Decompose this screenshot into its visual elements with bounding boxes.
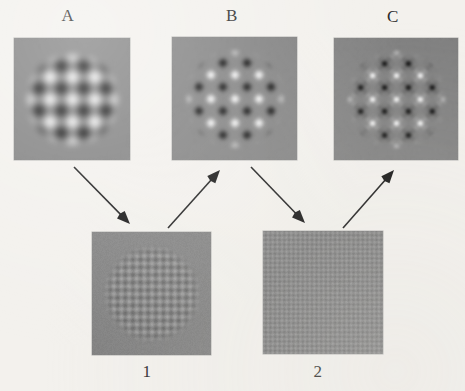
stimulus-canvas-1 [92,232,211,355]
stimulus-canvas-a [14,38,130,160]
stimulus-canvas-b [172,37,297,160]
panel-label-a: A [53,7,83,25]
arrow-1-to-b-line [168,177,213,228]
arrow-1-to-b-head [207,170,220,183]
stimulus-panel-b [172,37,297,160]
arrow-b-to-2-line [251,167,298,216]
stimulus-panel-1 [92,232,211,355]
stimulus-canvas-c [334,38,458,160]
arrow-a-to-1-head [117,211,130,224]
stimulus-panel-c [334,38,458,160]
stimulus-canvas-2 [263,231,383,354]
stimulus-panel-2 [263,231,383,354]
arrow-b-to-2-head [292,210,305,223]
panel-label-2: 2 [303,363,333,381]
arrow-2-to-c-line [343,178,387,228]
panel-label-1: 1 [132,363,162,381]
arrow-2-to-c-head [381,170,394,183]
arrow-a-to-1-line [74,167,123,217]
figure-root: A B C 1 2 [0,0,465,391]
stimulus-panel-a [14,38,130,160]
panel-label-c: C [378,8,408,26]
panel-label-b: B [217,7,247,25]
